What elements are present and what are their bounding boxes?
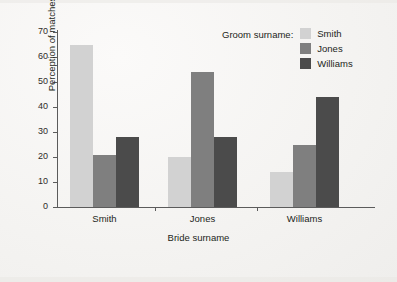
x-group-label: Smith — [65, 213, 145, 224]
legend-items: SmithJonesWilliams — [300, 28, 352, 69]
y-axis-title-wrapper: Perception of matches — [46, 0, 58, 114]
bar — [116, 137, 139, 207]
bar — [270, 172, 293, 207]
legend-swatch-icon — [300, 43, 311, 54]
bar — [316, 97, 339, 207]
x-axis-title: Bride surname — [0, 232, 397, 243]
y-tick-label: 10 — [38, 177, 48, 186]
x-tick — [257, 207, 258, 211]
bar — [214, 137, 237, 207]
y-tick — [53, 157, 57, 158]
bar — [191, 72, 214, 207]
bar — [93, 155, 116, 208]
legend-swatch-icon — [300, 28, 311, 39]
bar — [70, 45, 93, 208]
bar-group — [70, 32, 139, 207]
legend-label: Jones — [317, 43, 342, 54]
legend-label: Williams — [317, 58, 352, 69]
x-tick — [155, 207, 156, 211]
bar — [293, 145, 316, 208]
y-tick — [53, 207, 57, 208]
y-tick — [53, 182, 57, 183]
y-axis-title: Perception of matches — [46, 0, 57, 114]
legend-title: Groom surname: — [222, 28, 293, 40]
y-tick-label: 0 — [43, 202, 48, 211]
bar — [168, 157, 191, 207]
x-axis-line — [57, 207, 375, 208]
legend: Groom surname: SmithJonesWilliams — [222, 28, 353, 69]
y-tick — [53, 132, 57, 133]
page-edge-top — [0, 0, 397, 3]
x-group-label: Jones — [163, 213, 243, 224]
page-edge-bottom — [0, 277, 397, 282]
x-group-label: Williams — [265, 213, 345, 224]
bar-chart-figure: 706050403020100 Perception of matches Sm… — [0, 0, 397, 282]
legend-item: Jones — [300, 43, 352, 54]
y-tick-label: 30 — [38, 127, 48, 136]
legend-label: Smith — [317, 28, 341, 39]
legend-item: Williams — [300, 58, 352, 69]
y-tick-label: 20 — [38, 152, 48, 161]
legend-item: Smith — [300, 28, 352, 39]
legend-swatch-icon — [300, 58, 311, 69]
